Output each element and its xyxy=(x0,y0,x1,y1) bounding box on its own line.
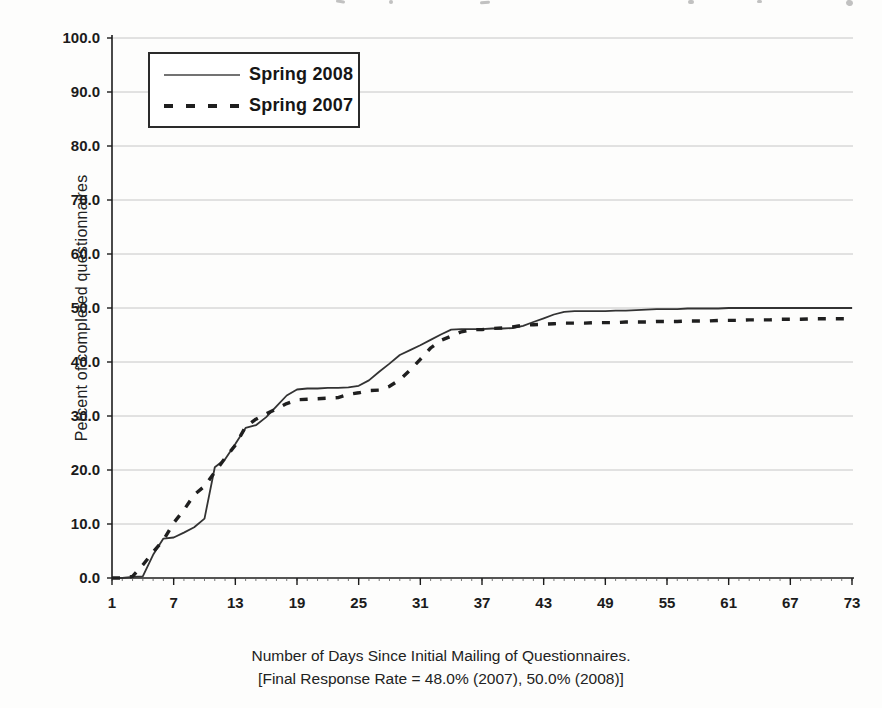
solid-line-sample-icon xyxy=(162,71,242,79)
x-tick-label: 37 xyxy=(474,594,491,611)
x-tick-label: 61 xyxy=(720,594,737,611)
x-tick-label: 49 xyxy=(597,594,614,611)
x-tick-label: 19 xyxy=(289,594,306,611)
response-rate-figure: 0.010.020.030.040.050.060.070.080.090.01… xyxy=(0,0,882,708)
series-line-spring-2008 xyxy=(112,308,852,578)
y-tick-label: 90.0 xyxy=(71,83,100,100)
y-tick-label: 80.0 xyxy=(71,137,100,154)
x-tick-label: 55 xyxy=(659,594,676,611)
y-tick-label: 100.0 xyxy=(62,29,100,46)
y-tick-label: 20.0 xyxy=(71,461,100,478)
x-tick-label: 7 xyxy=(169,594,177,611)
y-tick-label: 10.0 xyxy=(71,515,100,532)
series-line-spring-2007 xyxy=(112,319,852,578)
x-tick-label: 25 xyxy=(350,594,367,611)
x-axis-caption-line2: [Final Response Rate = 48.0% (2007), 50.… xyxy=(0,667,882,690)
y-axis-title: Percent of completed questionnaires xyxy=(73,175,91,442)
x-axis-caption-line1: Number of Days Since Initial Mailing of … xyxy=(0,644,882,667)
legend-box: Spring 2008 Spring 2007 xyxy=(148,52,360,128)
x-tick-label: 31 xyxy=(412,594,429,611)
y-tick-label: 0.0 xyxy=(79,569,100,586)
legend-label-spring-2008: Spring 2008 xyxy=(249,64,353,85)
legend-item-spring-2008: Spring 2008 xyxy=(150,64,358,85)
x-tick-label: 1 xyxy=(108,594,116,611)
legend-label-spring-2007: Spring 2007 xyxy=(249,95,353,116)
x-tick-label: 13 xyxy=(227,594,244,611)
x-tick-label: 43 xyxy=(535,594,552,611)
line-chart-canvas: 0.010.020.030.040.050.060.070.080.090.01… xyxy=(0,0,882,708)
legend-item-spring-2007: Spring 2007 xyxy=(150,95,358,116)
x-tick-label: 67 xyxy=(782,594,799,611)
x-axis-caption: Number of Days Since Initial Mailing of … xyxy=(0,644,882,690)
x-tick-label: 73 xyxy=(844,594,861,611)
dashed-line-sample-icon xyxy=(162,102,242,110)
